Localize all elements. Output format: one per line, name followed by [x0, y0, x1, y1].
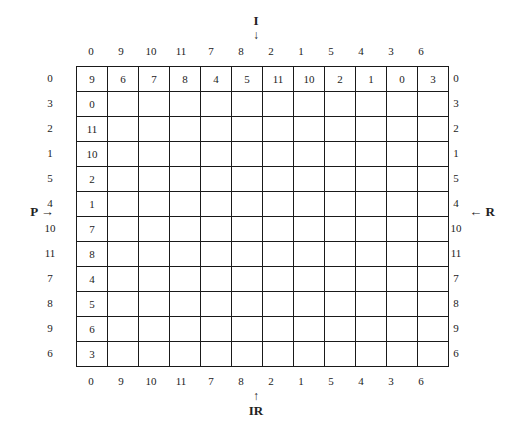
matrix-cell	[418, 217, 449, 242]
matrix-cell	[201, 217, 232, 242]
row-label: 2	[40, 122, 60, 134]
matrix-cell: 1	[356, 67, 387, 92]
matrix-cell	[108, 167, 139, 192]
column-label: 4	[346, 375, 376, 387]
matrix-cell	[294, 317, 325, 342]
matrix-cell	[325, 267, 356, 292]
prime-label: P →	[22, 204, 62, 220]
matrix-row: 2	[77, 167, 449, 192]
matrix-cell	[201, 267, 232, 292]
matrix-cell	[294, 142, 325, 167]
matrix-cell	[418, 267, 449, 292]
matrix-cell	[387, 217, 418, 242]
matrix-cell: 10	[77, 142, 108, 167]
matrix-cell	[232, 317, 263, 342]
matrix-cell	[232, 117, 263, 142]
row-label: 3	[40, 97, 60, 109]
row-label: 6	[446, 347, 466, 359]
matrix-cell	[201, 292, 232, 317]
matrix-cell	[356, 267, 387, 292]
matrix-cell	[418, 317, 449, 342]
matrix-cell	[170, 167, 201, 192]
matrix-cell	[294, 242, 325, 267]
matrix-cell	[387, 292, 418, 317]
matrix-cell	[325, 317, 356, 342]
row-label: 8	[40, 297, 60, 309]
inversion-label: I	[246, 13, 266, 29]
retrograde-label: ← R	[462, 204, 502, 220]
matrix-cell	[201, 117, 232, 142]
row-label: 7	[40, 272, 60, 284]
matrix-cell	[356, 242, 387, 267]
matrix-cell	[108, 342, 139, 367]
matrix-cell	[139, 292, 170, 317]
column-label: 8	[226, 45, 256, 57]
matrix-cell	[418, 342, 449, 367]
row-label: 11	[40, 247, 60, 259]
matrix-cell	[108, 142, 139, 167]
matrix-cell	[170, 267, 201, 292]
matrix-cell	[263, 142, 294, 167]
matrix-cell	[356, 317, 387, 342]
matrix-cell	[387, 342, 418, 367]
column-label: 2	[256, 45, 286, 57]
matrix-cell	[294, 292, 325, 317]
matrix-cell: 4	[77, 267, 108, 292]
matrix-cell: 7	[139, 67, 170, 92]
matrix-cell	[201, 242, 232, 267]
matrix-cell	[294, 92, 325, 117]
matrix-cell	[232, 267, 263, 292]
matrix-row: 3	[77, 342, 449, 367]
matrix-cell	[170, 342, 201, 367]
matrix-cell	[325, 167, 356, 192]
row-label: 11	[446, 247, 466, 259]
matrix-cell	[356, 342, 387, 367]
matrix-cell	[263, 217, 294, 242]
matrix-cell	[325, 117, 356, 142]
matrix-row: 11	[77, 117, 449, 142]
matrix-cell	[418, 242, 449, 267]
matrix-cell	[232, 342, 263, 367]
matrix-cell	[263, 92, 294, 117]
matrix-cell	[387, 92, 418, 117]
matrix-row: 5	[77, 292, 449, 317]
matrix-cell	[139, 217, 170, 242]
matrix-cell	[170, 142, 201, 167]
matrix-cell	[232, 192, 263, 217]
matrix-cell	[108, 317, 139, 342]
matrix-cell: 6	[77, 317, 108, 342]
column-label: 9	[106, 45, 136, 57]
row-label: 10	[40, 222, 60, 234]
matrix-cell	[325, 342, 356, 367]
up-arrow-icon: ↑	[246, 389, 266, 404]
matrix-cell	[418, 292, 449, 317]
matrix-cell	[232, 142, 263, 167]
matrix-cell	[356, 167, 387, 192]
matrix-cell	[387, 317, 418, 342]
matrix-cell	[387, 192, 418, 217]
matrix-cell	[170, 92, 201, 117]
column-label: 11	[166, 375, 196, 387]
retrograde-inversion-label: IR	[241, 403, 271, 419]
column-label: 3	[376, 45, 406, 57]
column-label: 7	[196, 375, 226, 387]
column-label: 5	[316, 375, 346, 387]
matrix-cell	[201, 92, 232, 117]
matrix-row: 8	[77, 242, 449, 267]
matrix-cell	[356, 292, 387, 317]
column-label: 5	[316, 45, 346, 57]
matrix-cell	[325, 142, 356, 167]
matrix-cell: 9	[77, 67, 108, 92]
matrix-cell	[325, 192, 356, 217]
matrix-cell	[294, 217, 325, 242]
matrix-cell	[201, 317, 232, 342]
matrix-cell: 0	[77, 92, 108, 117]
matrix-cell	[294, 192, 325, 217]
matrix-cell	[418, 117, 449, 142]
matrix-cell	[139, 242, 170, 267]
row-label: 9	[40, 322, 60, 334]
matrix-cell	[325, 217, 356, 242]
row-label: 8	[446, 297, 466, 309]
row-label: 0	[40, 72, 60, 84]
matrix-cell	[232, 292, 263, 317]
